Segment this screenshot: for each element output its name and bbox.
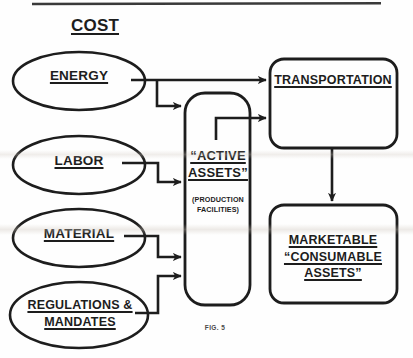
- node-energy-shape: [13, 52, 145, 110]
- figure-5-diagram: COST ENERGY LABOR MATERIAL REGULATIONS &…: [0, 0, 413, 358]
- connector-active-assets-to-transportation: [216, 118, 266, 140]
- node-material-shape: [13, 209, 145, 267]
- connector-energy-to-active-assets: [157, 80, 181, 106]
- top-rule: [32, 3, 381, 4]
- connector-labor-to-active-assets: [122, 163, 181, 182]
- diagram-canvas: [0, 0, 413, 358]
- node-labor-shape: [13, 136, 145, 194]
- node-transportation-shape: [270, 59, 397, 148]
- node-active-assets-shape: [185, 93, 250, 305]
- connector-regulations-to-active-assets: [135, 276, 181, 313]
- node-regulations-shape: [10, 282, 148, 348]
- node-marketable-shape: [270, 205, 397, 303]
